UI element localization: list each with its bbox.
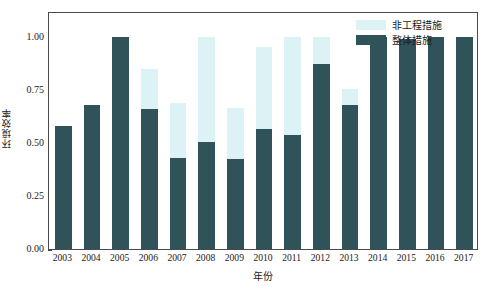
bar-overall-2005	[112, 37, 129, 249]
x-axis-tick-label-2015: 2015	[390, 252, 422, 263]
y-axis-tick-label: 0.00	[14, 243, 44, 254]
bar-overall-2012	[313, 64, 330, 249]
y-axis-tick-label: 0.50	[14, 137, 44, 148]
bar-overall-2017	[456, 37, 473, 249]
x-axis-tick-label-2017: 2017	[448, 252, 480, 263]
legend-item: 非工程措施	[356, 18, 474, 31]
bar-overall-2016	[428, 37, 445, 249]
bar-overall-2008	[198, 142, 215, 249]
x-axis-tick-label-2014: 2014	[362, 252, 394, 263]
bar-overall-2007	[170, 158, 187, 249]
bar-overall-2010	[256, 129, 273, 249]
x-axis-tick-label-2012: 2012	[304, 252, 336, 263]
x-axis-tick-label-2013: 2013	[333, 252, 365, 263]
x-axis-tick-label-2008: 2008	[190, 252, 222, 263]
bar-overall-2014	[370, 37, 387, 249]
x-axis-title: 年份	[48, 268, 478, 283]
legend-item: 整体措施	[356, 33, 474, 46]
x-axis-tick-label-2004: 2004	[75, 252, 107, 263]
chart-figure: 环境效率 0.000.250.500.751.00 20032004200520…	[0, 0, 494, 292]
bar-overall-2011	[284, 135, 301, 249]
x-axis-tick-label-2011: 2011	[276, 252, 308, 263]
x-axis-tick-label-2005: 2005	[104, 252, 136, 263]
x-axis-tick-label-2007: 2007	[161, 252, 193, 263]
bar-overall-2009	[227, 159, 244, 249]
legend-label: 非工程措施	[392, 17, 442, 32]
legend-swatch	[356, 35, 386, 45]
bar-overall-2013	[342, 105, 359, 249]
y-axis-tick-label: 0.75	[14, 84, 44, 95]
chart-legend: 非工程措施整体措施	[356, 18, 474, 48]
x-axis-tick-label-2010: 2010	[247, 252, 279, 263]
x-axis-tick-label-2006: 2006	[132, 252, 164, 263]
y-axis-tick-label: 0.25	[14, 190, 44, 201]
bar-overall-2003	[55, 126, 72, 249]
bar-overall-2006	[141, 109, 158, 249]
bar-overall-2004	[84, 105, 101, 249]
y-axis-tick-label: 1.00	[14, 31, 44, 42]
legend-swatch	[356, 20, 386, 30]
bar-overall-2015	[399, 39, 416, 249]
y-axis-tick-mark	[48, 250, 52, 251]
x-axis-tick-label-2009: 2009	[218, 252, 250, 263]
x-axis-tick-label-2003: 2003	[46, 252, 78, 263]
x-axis-tick-label-2016: 2016	[419, 252, 451, 263]
legend-label: 整体措施	[392, 32, 432, 47]
